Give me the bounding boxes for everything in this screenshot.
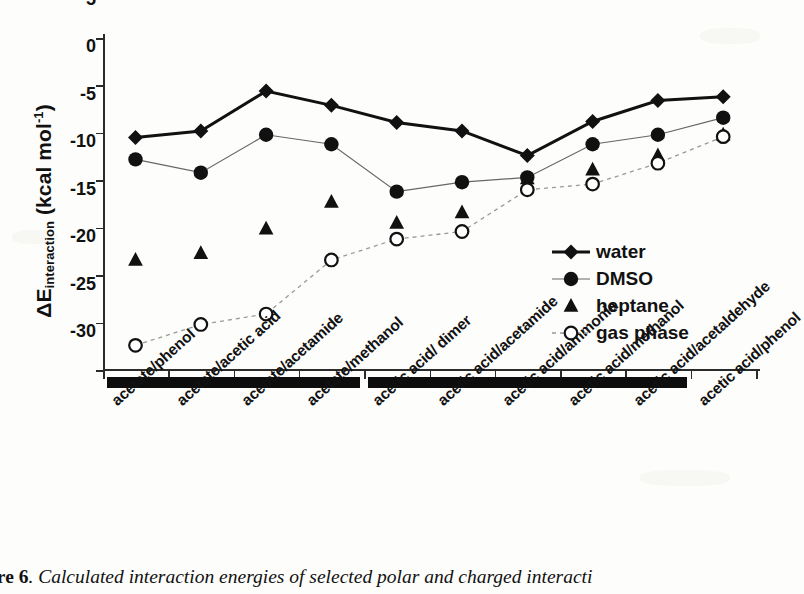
- data-point-heptane: [455, 205, 470, 219]
- data-point-gas-phase: [195, 318, 208, 331]
- legend-item-gas-phase[interactable]: gas phase: [548, 319, 728, 346]
- data-point-DMSO: [390, 184, 404, 198]
- legend-label: DMSO: [596, 268, 653, 290]
- y-tick-mark: [96, 133, 103, 135]
- data-point-water: [128, 130, 143, 145]
- y-tick-mark: [96, 85, 103, 87]
- data-point-heptane: [259, 221, 274, 235]
- y-tick-mark: [96, 228, 103, 230]
- legend-item-DMSO[interactable]: DMSO: [548, 265, 728, 292]
- y-tick-mark: [96, 180, 103, 182]
- data-point-water: [193, 123, 208, 138]
- y-tick-mark: [96, 323, 103, 325]
- y-tick-label: -25: [44, 275, 96, 293]
- y-tick-label: 0: [44, 37, 96, 55]
- y-tick-mark: [96, 38, 103, 40]
- data-point-DMSO: [455, 175, 469, 189]
- data-point-gas-phase: [521, 183, 534, 196]
- y-axis-tick-labels: 50-5-10-15-20-25-30: [40, 0, 96, 332]
- y-tick-mark: [96, 275, 103, 277]
- data-point-water: [520, 148, 535, 163]
- legend-label: water: [596, 241, 646, 263]
- legend-label: heptane: [596, 295, 669, 317]
- data-point-water: [585, 114, 600, 129]
- data-point-DMSO: [259, 128, 273, 142]
- data-point-heptane: [324, 194, 339, 208]
- legend-item-water[interactable]: water: [548, 238, 728, 265]
- legend-marker-circle-filled: [548, 269, 594, 289]
- data-point-water: [259, 84, 274, 99]
- y-tick-label: -5: [44, 85, 96, 103]
- data-point-gas-phase: [652, 157, 665, 170]
- legend-marker-triangle-filled: [548, 296, 594, 316]
- x-tick-mark: [756, 370, 758, 379]
- data-point-heptane: [193, 245, 208, 259]
- series-line-water: [136, 91, 724, 156]
- data-point-water: [716, 89, 731, 104]
- y-tick-label: 5: [44, 0, 96, 8]
- y-tick-label: -20: [44, 227, 96, 245]
- data-point-water: [650, 93, 665, 108]
- data-point-water: [324, 98, 339, 113]
- data-point-DMSO: [716, 110, 730, 124]
- data-point-DMSO: [324, 137, 338, 151]
- data-point-heptane: [585, 162, 600, 176]
- legend: waterDMSOheptanegas phase: [548, 238, 728, 346]
- scan-artifact: [640, 470, 730, 486]
- series-line-DMSO: [136, 118, 724, 192]
- data-point-water: [455, 123, 470, 138]
- data-point-heptane: [389, 215, 404, 229]
- data-point-DMSO: [651, 128, 665, 142]
- y-tick-label: -15: [44, 180, 96, 198]
- x-tick-mark: [364, 370, 366, 379]
- legend-marker-diamond-filled: [548, 242, 594, 262]
- legend-item-heptane[interactable]: heptane: [548, 292, 728, 319]
- data-point-gas-phase: [586, 178, 599, 191]
- y-tick-label: -10: [44, 132, 96, 150]
- legend-label: gas phase: [596, 322, 689, 344]
- caption-number: ure 6: [0, 566, 28, 587]
- data-point-DMSO: [194, 165, 208, 179]
- x-tick-mark: [103, 370, 105, 379]
- data-point-gas-phase: [129, 339, 142, 352]
- data-point-gas-phase: [325, 254, 338, 267]
- figure-caption: ure 6. Calculated interaction energies o…: [0, 566, 786, 594]
- x-tick-mark: [691, 370, 693, 379]
- caption-body: . Calculated interaction energies of sel…: [28, 566, 592, 587]
- data-point-gas-phase: [456, 225, 469, 238]
- y-tick-mark: [96, 370, 103, 372]
- y-tick-label: -30: [44, 322, 96, 340]
- data-point-gas-phase: [717, 130, 730, 143]
- data-point-water: [389, 115, 404, 130]
- data-point-heptane: [128, 252, 143, 266]
- data-point-DMSO: [128, 152, 142, 166]
- data-point-DMSO: [585, 137, 599, 151]
- data-point-gas-phase: [390, 233, 403, 246]
- legend-marker-circle-open: [548, 323, 594, 343]
